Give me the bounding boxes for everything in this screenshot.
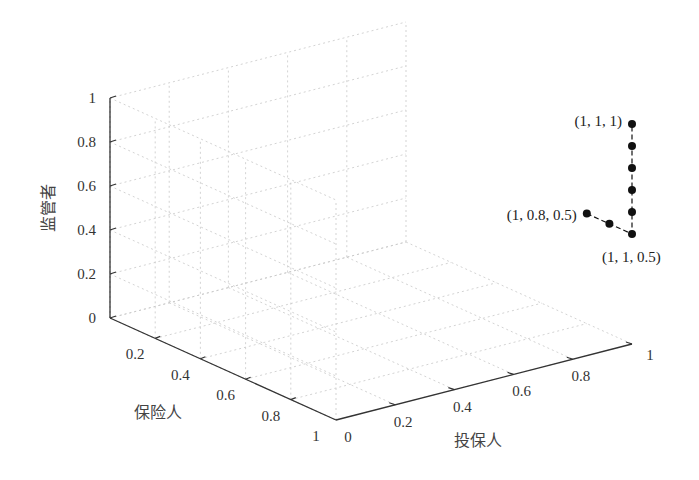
y-tick-label: 0.8 [261,408,280,424]
x-axis-title: 投保人 [454,431,502,450]
data-point [628,208,636,216]
grid-line [228,288,454,390]
x-tick [567,357,573,359]
x-tick [626,342,632,344]
data-point [628,120,636,128]
x-tick-label: 1 [646,347,654,363]
grid-line [347,257,573,359]
grid-line [110,198,406,274]
x-tick-label: 0 [344,429,352,445]
data-point [628,230,636,238]
y-tick [200,357,205,359]
grid-line [110,242,406,318]
grid-line [200,283,496,359]
z-tick-label: 0.8 [77,134,96,150]
y-tick-label: 0.4 [171,367,190,383]
x-tick [448,388,454,390]
point-label: (1, 0.8, 0.5) [507,207,577,224]
z-axis-title: 监管者 [39,184,58,232]
grid-line [110,22,406,98]
z-tick-label: 0 [89,310,97,326]
z-tick-label: 0.6 [77,178,96,194]
y-tick-label: 1 [312,428,320,444]
data-point [628,186,636,194]
z-tick-label: 1 [89,90,97,106]
x-tick [389,403,395,405]
point-annotations: (1, 1, 1)(1, 0.8, 0.5)(1, 1, 0.5) [507,113,661,266]
data-point [628,164,636,172]
point-label: (1, 1, 1) [575,113,623,130]
grid-line [406,242,632,344]
y-tick-label: 0.2 [126,346,145,362]
z-tick-label: 0.4 [77,222,96,238]
grid-line [291,324,587,400]
y-tick [246,377,251,379]
grid-line [110,110,406,186]
y-tick [291,398,296,400]
grid-line [110,154,406,230]
x-tick-label: 0.2 [394,414,413,430]
grid-line [246,303,542,379]
grid-line [169,303,395,405]
data-point [628,142,636,150]
point-label: (1, 1, 0.5) [602,249,661,266]
series-trajectory [583,120,636,238]
data-point [583,210,591,218]
axis-ticks [110,96,632,405]
3d-chart: 00.20.40.60.810.20.40.60.8100.20.40.60.8… [0,0,699,480]
data-point [605,220,613,228]
x-tick-label: 0.4 [453,399,472,415]
y-tick-label: 0.6 [216,387,235,403]
trajectory-line [587,124,632,234]
x-tick [508,372,514,374]
grid-line [155,262,451,338]
grid-line [288,272,514,374]
x-tick-label: 0.8 [571,368,590,384]
grid-line [110,66,406,142]
y-axis-title: 保险人 [134,403,182,422]
z-tick-label: 0.2 [77,266,96,282]
y-tick [155,336,160,338]
x-tick-label: 0.6 [512,383,531,399]
